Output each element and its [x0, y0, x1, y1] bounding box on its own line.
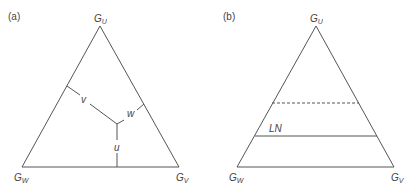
triangle-b	[237, 26, 394, 167]
triangle-a	[22, 26, 179, 167]
vertex-label-right-a: GV	[176, 172, 190, 184]
segment-w-a	[117, 120, 124, 124]
vertex-label-top-b: GU	[310, 13, 324, 25]
vertex-label-left-b: GW	[229, 172, 245, 184]
panel-a: (a) v w u GU GW GV	[8, 11, 190, 184]
segment-label-w: w	[127, 108, 135, 119]
ternary-diagrams: (a) v w u GU GW GV (b) LN GU GW GV	[0, 0, 409, 191]
segment-v-b	[90, 104, 117, 124]
panel-a-tag: (a)	[8, 11, 20, 22]
segment-label-v: v	[81, 94, 87, 105]
vertex-label-right-b: GV	[391, 172, 405, 184]
vertex-label-top-a: GU	[94, 13, 108, 25]
segment-label-u: u	[114, 142, 120, 153]
segment-v-a	[67, 86, 80, 95]
segment-w-b	[137, 104, 144, 110]
vertex-label-left-a: GW	[14, 172, 30, 184]
ln-label: LN	[269, 123, 283, 134]
panel-b-tag: (b)	[223, 11, 235, 22]
panel-b: (b) LN GU GW GV	[223, 11, 405, 184]
